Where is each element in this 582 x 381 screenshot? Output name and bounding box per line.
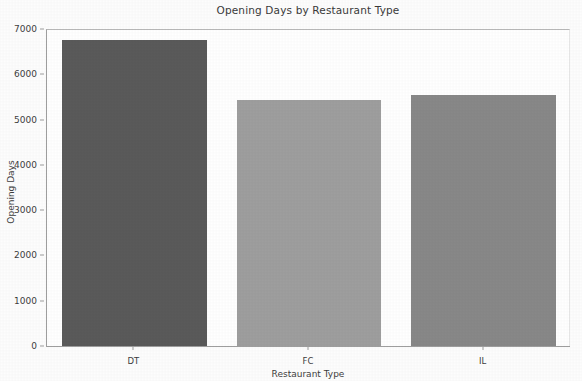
bar-il	[411, 95, 556, 346]
x-tick-label: FC	[303, 356, 314, 366]
y-tick-mark	[40, 119, 44, 120]
y-tick-label: 4000	[14, 160, 37, 170]
chart-figure: Opening Days by Restaurant Type 01000200…	[0, 0, 582, 381]
x-tick-label: DT	[127, 356, 139, 366]
x-tick-mark	[308, 346, 309, 350]
bar-dt	[62, 40, 207, 346]
x-axis-title: Restaurant Type	[46, 369, 570, 379]
y-tick-mark	[40, 164, 44, 165]
y-axis-title: Opening Days	[6, 147, 16, 237]
y-tick-label: 1000	[14, 296, 37, 306]
plot-area	[46, 29, 570, 346]
bars-layer	[47, 30, 569, 346]
y-tick-mark	[40, 300, 44, 301]
y-tick-label: 2000	[14, 250, 37, 260]
x-tick-mark	[482, 346, 483, 350]
y-tick-label: 7000	[14, 24, 37, 34]
y-tick-label: 5000	[14, 115, 37, 125]
y-tick-label: 3000	[14, 205, 37, 215]
y-tick-mark	[40, 74, 44, 75]
y-tick-mark	[40, 29, 44, 30]
chart-title: Opening Days by Restaurant Type	[46, 4, 570, 16]
y-tick-mark	[40, 210, 44, 211]
bar-fc	[237, 100, 382, 346]
x-axis: Restaurant Type DTFCIL	[0, 346, 582, 381]
y-tick-label: 6000	[14, 69, 37, 79]
x-tick-mark	[133, 346, 134, 350]
x-tick-label: IL	[479, 356, 486, 366]
y-tick-mark	[40, 255, 44, 256]
